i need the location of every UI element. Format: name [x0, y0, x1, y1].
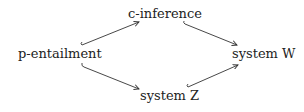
arrow-pentail-to-systemz — [82, 63, 139, 89]
hook-arrow-pentail-to-cinference — [81, 22, 139, 45]
arrow-cinference-to-systemw — [184, 21, 237, 45]
arrows-layer — [0, 0, 304, 112]
hook-arrow-systemz-to-systemw — [187, 65, 238, 87]
